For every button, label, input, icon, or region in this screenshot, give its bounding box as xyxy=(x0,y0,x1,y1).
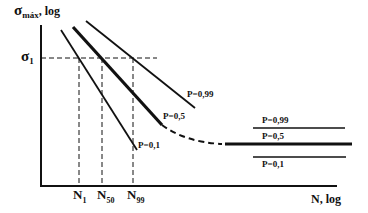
n99-label-sub: 99 xyxy=(136,196,144,205)
curve-p01-label: P=0,1 xyxy=(138,141,160,150)
n1-label-main: N xyxy=(73,187,82,202)
n50-label: N50 xyxy=(97,188,114,201)
endurance-p05-label: P=0,5 xyxy=(262,132,284,141)
curve-p099-label: P=0,99 xyxy=(187,90,213,99)
n1-label: N1 xyxy=(73,188,86,201)
sigma1-label-sub: 1 xyxy=(29,56,34,66)
n50-label-main: N xyxy=(97,187,106,202)
curve-p05 xyxy=(73,27,162,125)
sigma1-label-main: σ xyxy=(21,48,29,64)
endurance-p099-label: P=0,99 xyxy=(262,116,288,125)
transition-dashed-curve xyxy=(162,125,222,144)
curve-p01 xyxy=(61,30,137,150)
n99-label-main: N xyxy=(127,187,136,202)
n99-label: N99 xyxy=(127,188,144,201)
curve-p05-label: P=0,5 xyxy=(163,112,185,121)
n50-label-sub: 50 xyxy=(106,196,114,205)
y-axis-label-sub: máx xyxy=(22,10,39,20)
sigma1-label: σ1 xyxy=(21,49,34,64)
endurance-p01-label: P=0,1 xyxy=(262,160,284,169)
y-axis-label: σmáx, log xyxy=(14,3,60,18)
y-axis-label-suffix: , log xyxy=(39,4,60,18)
n1-label-sub: 1 xyxy=(82,196,86,205)
y-axis-label-sigma: σ xyxy=(14,2,22,18)
x-axis-label: N, log xyxy=(311,193,341,205)
sn-diagram-canvas xyxy=(0,0,368,213)
